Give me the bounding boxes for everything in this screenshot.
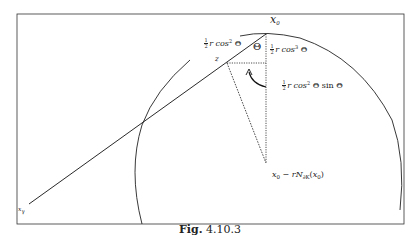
figure-caption: Fig. 4.10.3: [0, 223, 420, 236]
expr-text: r cos: [209, 39, 229, 48]
label-x0-sub: 0: [276, 20, 280, 26]
caption-prefix: Fig.: [179, 223, 203, 236]
label-x0: x0: [270, 14, 280, 27]
label-vertical-segment: 12r cos3 Θ: [270, 44, 307, 55]
label-left-segment: 12r cos2 Θ: [204, 38, 241, 49]
fraction-half: 12: [270, 44, 274, 55]
expr-tail: Θ: [298, 45, 307, 54]
label-horizontal-segment: 12r cos2 Θ sin Θ: [282, 80, 343, 91]
ball-boundary-arc-left: [135, 60, 190, 224]
ball-boundary-arc: [240, 33, 402, 210]
expr-text: r cos: [275, 45, 295, 54]
frac-den: 2: [282, 86, 286, 91]
label-z: z: [215, 56, 219, 63]
segment-x0-xgamma: [29, 34, 266, 204]
caption-number: 4.10.3: [206, 223, 241, 236]
label-xgamma-sub: γ: [21, 208, 24, 214]
expr-text: r cos: [287, 81, 307, 90]
center-close: ): [321, 170, 324, 179]
expr-tail: Θ sin Θ: [310, 81, 343, 90]
frac-den: 2: [204, 44, 208, 49]
diagram-canvas: [0, 0, 420, 239]
center-N: N: [296, 170, 303, 179]
frac-den: 2: [270, 50, 274, 55]
expr-tail: Θ: [232, 39, 241, 48]
fraction-half: 12: [282, 80, 286, 91]
center-minus: −: [280, 170, 292, 179]
label-theta: Θ: [253, 42, 261, 52]
label-x-gamma: xγ: [18, 206, 25, 215]
label-center: x0 − rN∂K(x0): [272, 171, 324, 181]
center-N-sub: ∂K: [303, 174, 310, 180]
dotted-z-center: [227, 63, 266, 163]
fraction-half: 12: [204, 38, 208, 49]
